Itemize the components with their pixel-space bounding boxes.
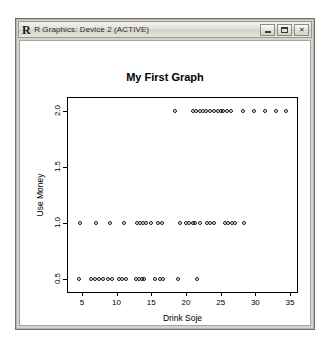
close-icon: ✕: [295, 25, 308, 35]
scatter-point: [108, 221, 112, 225]
chart-title: My First Graph: [20, 71, 310, 83]
scatter-point: [142, 277, 146, 281]
scatter-point: [124, 277, 128, 281]
scatter-point: [160, 221, 164, 225]
scatter-point: [195, 277, 199, 281]
y-tick: [63, 167, 67, 168]
x-tick: [221, 292, 222, 296]
maximize-button[interactable]: [277, 24, 292, 36]
scatter-point: [178, 221, 182, 225]
y-axis-label: Use Money: [34, 97, 46, 293]
scatter-point: [274, 109, 278, 113]
scatter-point: [149, 221, 153, 225]
scatter-point: [176, 277, 180, 281]
y-tick-label-text: 0.5: [53, 269, 62, 287]
x-tick-label-text: 15: [147, 298, 156, 307]
y-tick-label-text: 1.0: [53, 213, 62, 231]
scatter-point: [161, 277, 165, 281]
scatter-point: [94, 221, 98, 225]
r-graphics-window: R R Graphics: Device 2 (ACTIVE) ✕ My Fir…: [15, 18, 315, 330]
window-titlebar[interactable]: R R Graphics: Device 2 (ACTIVE) ✕: [18, 21, 312, 38]
scatter-point: [212, 221, 216, 225]
y-tick: [63, 111, 67, 112]
scatter-point: [263, 109, 267, 113]
scatter-point: [122, 221, 126, 225]
plot-canvas: My First Graph Use Money 0.51.01.52.0 51…: [19, 40, 311, 326]
y-axis-label-text: Use Money: [35, 174, 45, 217]
x-tick-label-text: 25: [216, 298, 225, 307]
x-tick: [290, 292, 291, 296]
scatter-point: [144, 221, 148, 225]
y-tick-label-text: 2.0: [53, 102, 62, 120]
x-tick: [255, 292, 256, 296]
x-tick: [117, 292, 118, 296]
scatter-point: [77, 277, 81, 281]
x-tick-label-text: 5: [80, 298, 84, 307]
window-title: R Graphics: Device 2 (ACTIVE): [34, 25, 258, 34]
x-tick-label-text: 20: [182, 298, 191, 307]
x-tick: [186, 292, 187, 296]
x-axis-label: Drink Soje: [67, 313, 298, 323]
scatter-point: [173, 109, 177, 113]
y-tick-label-text: 1.5: [53, 158, 62, 176]
scatter-point: [198, 221, 202, 225]
x-tick-label-text: 10: [112, 298, 121, 307]
scatter-point: [229, 109, 233, 113]
scatter-point: [284, 109, 288, 113]
scatter-point: [110, 277, 114, 281]
y-tick: [63, 279, 67, 280]
close-button[interactable]: ✕: [294, 24, 309, 36]
maximize-icon: [278, 25, 291, 35]
y-tick: [63, 223, 67, 224]
scatter-point: [78, 221, 82, 225]
scatter-point: [233, 221, 237, 225]
scatter-point: [241, 109, 245, 113]
x-tick: [82, 292, 83, 296]
x-tick: [151, 292, 152, 296]
scatter-point: [106, 277, 110, 281]
scatter-point: [252, 109, 256, 113]
r-logo-icon: R: [22, 24, 30, 36]
minimize-button[interactable]: [260, 24, 275, 36]
plot-frame: 0.51.01.52.0 5101520253035: [67, 97, 298, 293]
scatter-point: [242, 221, 246, 225]
x-tick-label-text: 30: [251, 298, 260, 307]
scatter-point: [193, 221, 197, 225]
x-tick-label-text: 35: [286, 298, 295, 307]
minimize-icon: [261, 25, 274, 35]
